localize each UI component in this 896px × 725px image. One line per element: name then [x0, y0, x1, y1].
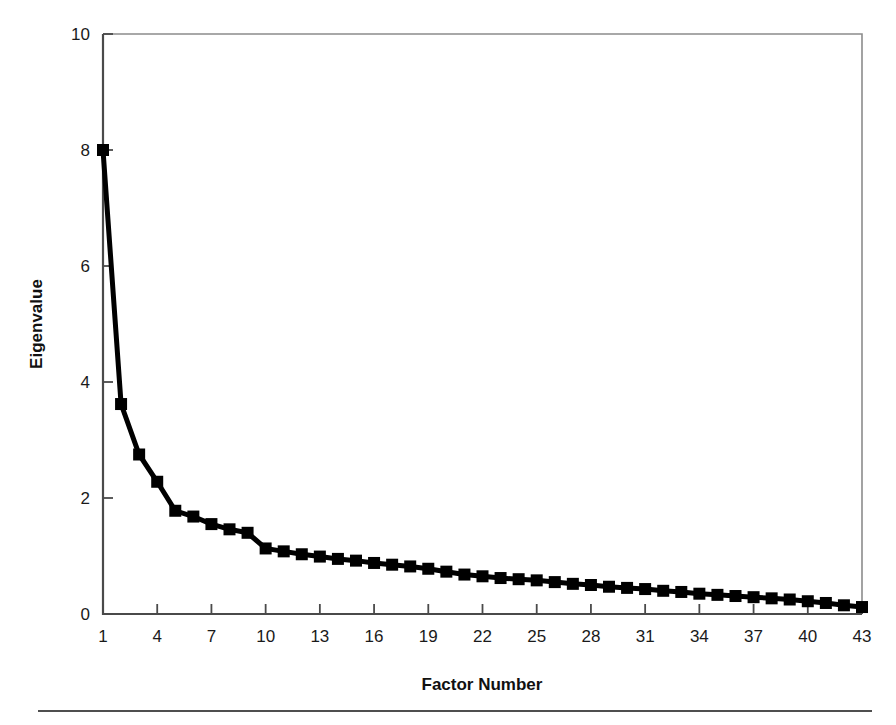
x-axis-ticks [103, 604, 862, 614]
data-point-marker [477, 570, 489, 582]
eigenvalue-series-markers [97, 144, 868, 613]
data-point-marker [693, 588, 705, 600]
data-point-marker [784, 594, 796, 606]
x-tick-label: 43 [853, 627, 872, 646]
data-point-marker [549, 576, 561, 588]
data-point-marker [404, 560, 416, 572]
data-point-marker [567, 578, 579, 590]
data-point-marker [332, 553, 344, 565]
y-tick-label: 6 [81, 257, 90, 276]
data-point-marker [838, 599, 850, 611]
data-point-marker [495, 572, 507, 584]
data-point-marker [513, 573, 525, 585]
x-tick-label: 40 [798, 627, 817, 646]
x-tick-label: 1 [98, 627, 107, 646]
data-point-marker [115, 398, 127, 410]
x-tick-label: 7 [207, 627, 216, 646]
data-point-marker [730, 590, 742, 602]
data-point-marker [748, 591, 760, 603]
data-point-marker [169, 505, 181, 517]
data-point-marker [675, 586, 687, 598]
x-tick-label: 25 [527, 627, 546, 646]
data-point-marker [97, 144, 109, 156]
x-tick-label: 19 [419, 627, 438, 646]
data-point-marker [585, 579, 597, 591]
x-tick-label: 10 [256, 627, 275, 646]
data-point-marker [639, 583, 651, 595]
data-point-marker [802, 595, 814, 607]
eigenvalue-series-line [103, 150, 862, 607]
data-point-marker [856, 601, 868, 613]
data-point-marker [386, 559, 398, 571]
data-point-marker [296, 548, 308, 560]
data-point-marker [350, 555, 362, 567]
data-point-marker [278, 545, 290, 557]
data-point-marker [422, 563, 434, 575]
y-tick-label: 4 [81, 373, 90, 392]
data-point-marker [187, 511, 199, 523]
y-tick-label: 10 [71, 25, 90, 44]
data-point-marker [205, 518, 217, 530]
y-axis-ticks [103, 34, 113, 614]
x-tick-label: 37 [744, 627, 763, 646]
data-point-marker [260, 542, 272, 554]
y-tick-label: 0 [81, 605, 90, 624]
data-point-marker [657, 585, 669, 597]
data-point-marker [133, 449, 145, 461]
data-point-marker [242, 527, 254, 539]
y-axis-title: Eigenvalue [27, 279, 46, 369]
x-tick-label: 16 [365, 627, 384, 646]
x-axis-title: Factor Number [422, 675, 543, 694]
x-tick-label: 22 [473, 627, 492, 646]
data-point-marker [621, 582, 633, 594]
data-point-marker [314, 551, 326, 563]
y-tick-label: 2 [81, 489, 90, 508]
y-axis-tick-labels: 0246810 [71, 25, 90, 624]
x-tick-label: 13 [310, 627, 329, 646]
data-point-marker [440, 566, 452, 578]
data-point-marker [711, 589, 723, 601]
scree-plot-figure: 0246810 147101316192225283134374043 Eige… [0, 0, 896, 725]
x-tick-label: 34 [690, 627, 709, 646]
x-tick-label: 31 [636, 627, 655, 646]
data-point-marker [458, 569, 470, 581]
data-point-marker [151, 476, 163, 488]
data-point-marker [531, 574, 543, 586]
x-axis-tick-labels: 147101316192225283134374043 [98, 627, 871, 646]
data-point-marker [603, 581, 615, 593]
scree-plot-canvas: 0246810 147101316192225283134374043 Eige… [0, 0, 896, 725]
data-point-marker [820, 597, 832, 609]
x-tick-label: 4 [152, 627, 161, 646]
data-point-marker [224, 523, 236, 535]
x-tick-label: 28 [581, 627, 600, 646]
data-point-marker [766, 592, 778, 604]
y-tick-label: 8 [81, 141, 90, 160]
data-point-marker [368, 557, 380, 569]
